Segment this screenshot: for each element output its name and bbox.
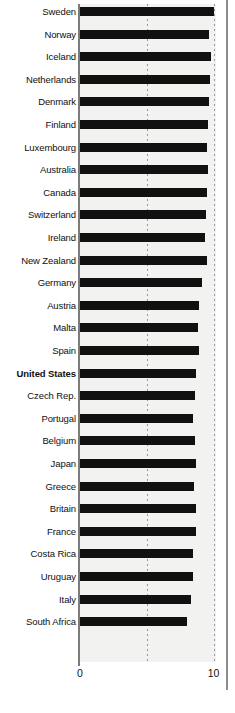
category-label: Italy	[0, 594, 76, 606]
bar-row: Iceland	[0, 51, 235, 73]
bar-row: Portugal	[0, 413, 235, 435]
category-label: France	[0, 526, 76, 538]
category-label: Switzerland	[0, 209, 76, 221]
bar	[80, 278, 202, 287]
category-label: Finland	[0, 119, 76, 131]
bar	[80, 188, 207, 197]
bar	[80, 120, 208, 129]
category-label: Belgium	[0, 435, 76, 447]
bar	[80, 346, 199, 355]
bar-row: Australia	[0, 164, 235, 186]
category-label: Japan	[0, 458, 76, 470]
bar	[80, 30, 209, 39]
bar	[80, 323, 198, 332]
bar-row: Norway	[0, 29, 235, 51]
bar-row: Netherlands	[0, 74, 235, 96]
bar	[80, 256, 207, 265]
bar-row: Malta	[0, 322, 235, 344]
category-label: Denmark	[0, 96, 76, 108]
bar	[80, 459, 196, 468]
bar-row: Costa Rica	[0, 548, 235, 570]
bar-row: Czech Rep.	[0, 390, 235, 412]
category-label: New Zealand	[0, 255, 76, 267]
category-label: Australia	[0, 164, 76, 176]
bar	[80, 549, 193, 558]
bar	[80, 482, 194, 491]
bar-row: Uruguay	[0, 571, 235, 593]
category-label: Portugal	[0, 413, 76, 425]
bar-row: Britain	[0, 503, 235, 525]
bar-row: France	[0, 526, 235, 548]
bar-row: Finland	[0, 119, 235, 141]
category-label: Spain	[0, 345, 76, 357]
bar-row: Switzerland	[0, 209, 235, 231]
bar	[80, 301, 199, 310]
bar-row: Canada	[0, 187, 235, 209]
bar	[80, 617, 187, 626]
bar	[80, 7, 214, 16]
bar-row: Japan	[0, 458, 235, 480]
category-label: Malta	[0, 322, 76, 334]
bar	[80, 504, 196, 513]
bar	[80, 210, 206, 219]
bar-row: Spain	[0, 345, 235, 367]
bar-row: United States	[0, 368, 235, 390]
category-label: Iceland	[0, 51, 76, 63]
bar	[80, 595, 191, 604]
bar-rows: SwedenNorwayIcelandNetherlandsDenmarkFin…	[0, 0, 235, 666]
bar	[80, 97, 209, 106]
category-label: Austria	[0, 300, 76, 312]
bar-row: Luxembourg	[0, 142, 235, 164]
bar-row: Belgium	[0, 435, 235, 457]
x-tick-label-0: 0	[68, 666, 92, 680]
category-label: Greece	[0, 481, 76, 493]
category-label: Britain	[0, 503, 76, 515]
x-tick-label-10: 10	[202, 666, 226, 680]
bar	[80, 391, 195, 400]
category-label: Norway	[0, 29, 76, 41]
category-label: South Africa	[0, 616, 76, 628]
bar	[80, 436, 195, 445]
bar	[80, 527, 196, 536]
category-label: Ireland	[0, 232, 76, 244]
bar-row: Ireland	[0, 232, 235, 254]
bar-chart: SwedenNorwayIcelandNetherlandsDenmarkFin…	[0, 0, 235, 713]
bar	[80, 572, 193, 581]
bar-row: Denmark	[0, 96, 235, 118]
bar	[80, 75, 210, 84]
bar-row: Italy	[0, 594, 235, 616]
bar-row: Sweden	[0, 6, 235, 28]
bar	[80, 165, 208, 174]
bar-row: New Zealand	[0, 255, 235, 277]
x-axis-tick-labels: 0 10	[0, 666, 235, 684]
category-label: Uruguay	[0, 571, 76, 583]
bar-row: Austria	[0, 300, 235, 322]
category-label: United States	[0, 368, 76, 380]
bar	[80, 52, 211, 61]
category-label: Sweden	[0, 6, 76, 18]
bar	[80, 143, 207, 152]
category-label: Czech Rep.	[0, 390, 76, 402]
bar	[80, 233, 205, 242]
bar-row: Germany	[0, 277, 235, 299]
bar	[80, 414, 193, 423]
category-label: Costa Rica	[0, 548, 76, 560]
bar	[80, 369, 196, 378]
category-label: Luxembourg	[0, 142, 76, 154]
category-label: Canada	[0, 187, 76, 199]
bar-row: South Africa	[0, 616, 235, 638]
category-label: Germany	[0, 277, 76, 289]
category-label: Netherlands	[0, 74, 76, 86]
bar-row: Greece	[0, 481, 235, 503]
